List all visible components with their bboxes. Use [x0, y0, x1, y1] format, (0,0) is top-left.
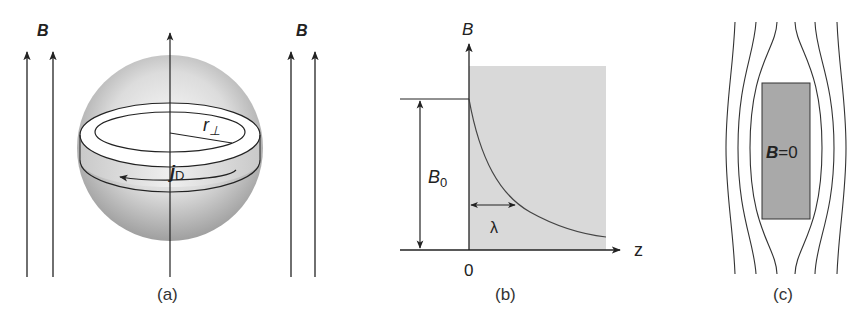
x-axis-label: z: [634, 240, 643, 260]
panel-b: B z 0 B0 λ (b): [400, 20, 643, 304]
caption-b: (b): [495, 285, 516, 304]
caption-c: (c): [773, 285, 793, 304]
field-label-left: B: [37, 22, 49, 39]
panel-c: B=0 (c): [726, 22, 846, 304]
field-line: [815, 22, 834, 274]
panel-a: B B r⊥ jD (a): [27, 22, 315, 304]
caption-a: (a): [157, 285, 178, 304]
b0-label: B0: [428, 167, 447, 190]
field-line: [738, 22, 756, 274]
figure-canvas: B B r⊥ jD (a) B z 0: [0, 0, 862, 315]
field-label-right: B: [296, 22, 308, 39]
field-line: [837, 22, 846, 274]
field-line: [726, 22, 735, 274]
origin-label: 0: [464, 261, 473, 280]
penetration-depth-label: λ: [490, 219, 498, 236]
y-axis-label: B: [462, 20, 473, 39]
interior-field-label: B=0: [766, 143, 798, 162]
